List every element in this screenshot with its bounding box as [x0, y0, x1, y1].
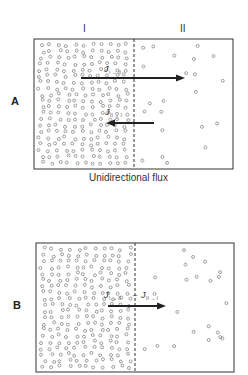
particle [77, 255, 80, 258]
particle [192, 330, 195, 333]
particle [57, 284, 60, 287]
particle [54, 73, 57, 76]
particle [91, 49, 94, 52]
particle [93, 345, 96, 348]
particle [103, 254, 106, 257]
particle [94, 247, 97, 250]
particle [102, 303, 105, 306]
particle [51, 302, 54, 305]
particle [69, 365, 72, 368]
particle [126, 92, 129, 95]
particle [57, 333, 60, 336]
particle [41, 285, 44, 288]
particle [57, 111, 60, 114]
particle [49, 111, 52, 114]
particle [117, 255, 120, 258]
minus-sign: − [133, 291, 138, 300]
particle [53, 321, 56, 324]
particle [105, 130, 108, 133]
particle [192, 58, 195, 61]
particle [80, 82, 83, 85]
particle [41, 365, 44, 368]
particle [121, 364, 124, 367]
particle [43, 311, 46, 314]
particle [47, 43, 50, 46]
particle [74, 154, 77, 157]
particle [118, 249, 121, 252]
particle [82, 87, 85, 90]
particle [83, 283, 86, 286]
particle [51, 353, 54, 356]
particle [109, 321, 112, 324]
particle [67, 119, 70, 122]
particle [98, 155, 101, 158]
particle [84, 364, 87, 367]
particle [74, 284, 77, 287]
particle [59, 259, 62, 262]
particle [48, 117, 51, 120]
particle [119, 309, 122, 312]
particle [126, 327, 129, 330]
particle [67, 259, 70, 262]
particle [74, 73, 77, 76]
particle [118, 274, 121, 277]
particle [38, 70, 41, 73]
particle [143, 110, 146, 113]
particle [76, 341, 79, 344]
particle [110, 335, 113, 338]
particle [67, 112, 70, 115]
particle [56, 61, 59, 64]
particle [110, 55, 113, 58]
particle [83, 63, 86, 66]
particle [42, 323, 45, 326]
particle [91, 333, 94, 336]
particle [49, 310, 52, 313]
particle [85, 315, 88, 318]
particle [67, 315, 70, 318]
particle [64, 87, 67, 90]
particle [93, 292, 96, 295]
particle [73, 354, 76, 357]
particle [78, 297, 81, 300]
particle [182, 249, 185, 252]
particle [77, 323, 80, 326]
particle [58, 56, 61, 59]
particle [85, 359, 88, 362]
particle [57, 44, 60, 47]
particle [217, 275, 220, 278]
particle [126, 292, 129, 295]
particle [116, 136, 119, 139]
particle [68, 99, 71, 102]
particle [67, 154, 70, 157]
arrow-head-icon [106, 120, 115, 127]
particle [81, 273, 84, 276]
arrow-head-icon [157, 303, 166, 310]
particle [107, 328, 110, 331]
particle [99, 284, 102, 287]
flux-subscript: I → II [109, 295, 121, 301]
particle [127, 341, 130, 344]
particle [109, 259, 112, 262]
particle [122, 80, 125, 83]
particle [115, 156, 118, 159]
particle [50, 298, 53, 301]
particle [82, 266, 85, 269]
particle [57, 92, 60, 95]
particle [124, 106, 127, 109]
particle [71, 130, 74, 133]
particle [101, 317, 104, 320]
particle [68, 248, 71, 251]
particle [204, 146, 207, 149]
particle [47, 87, 50, 90]
particle [110, 310, 113, 313]
particle [74, 138, 77, 141]
particle [89, 123, 92, 126]
particle [51, 335, 54, 338]
particle [173, 345, 176, 348]
particle [84, 296, 87, 299]
particle [95, 310, 98, 313]
particle [47, 124, 50, 127]
particle [75, 259, 78, 262]
particle [81, 143, 84, 146]
particle [83, 55, 86, 58]
